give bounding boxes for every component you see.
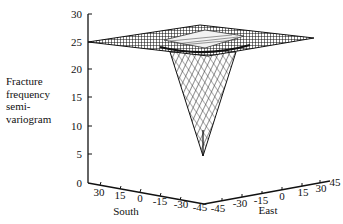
- south-tick-label: -30: [174, 198, 189, 210]
- east-tick-label: 0: [279, 190, 285, 202]
- z-tick-label: 10: [71, 120, 83, 132]
- south-tick-label: 0: [137, 192, 143, 204]
- east-axis: -45 -30 -15 0 15 30 45 East: [204, 176, 341, 216]
- surface-plot: 30 25 20 15 10 5 0 30 15 0 -15 -30 -45 S…: [0, 0, 343, 224]
- south-tick-label: 30: [94, 186, 106, 198]
- z-tick-label: 20: [71, 63, 83, 75]
- variogram-surface: [88, 25, 314, 156]
- z-tick-label: 0: [77, 177, 83, 189]
- z-axis: 30 25 20 15 10 5 0: [71, 8, 92, 189]
- south-tick-label: -15: [153, 195, 168, 207]
- south-tick-label: 15: [115, 189, 127, 201]
- east-tick-label: 30: [316, 182, 328, 194]
- z-tick-label: 25: [71, 36, 83, 48]
- south-axis-title: South: [113, 205, 139, 217]
- z-tick-label: 15: [71, 91, 83, 103]
- east-tick-label: -45: [211, 202, 226, 214]
- z-tick-label: 5: [77, 148, 83, 160]
- east-tick-label: 45: [330, 176, 342, 188]
- east-axis-title: East: [259, 204, 278, 216]
- south-tick-label: -45: [193, 201, 208, 213]
- south-axis: 30 15 0 -15 -30 -45 South: [88, 182, 208, 217]
- z-tick-label: 30: [71, 8, 83, 20]
- east-tick-label: -30: [233, 197, 248, 209]
- east-tick-label: 15: [298, 186, 310, 198]
